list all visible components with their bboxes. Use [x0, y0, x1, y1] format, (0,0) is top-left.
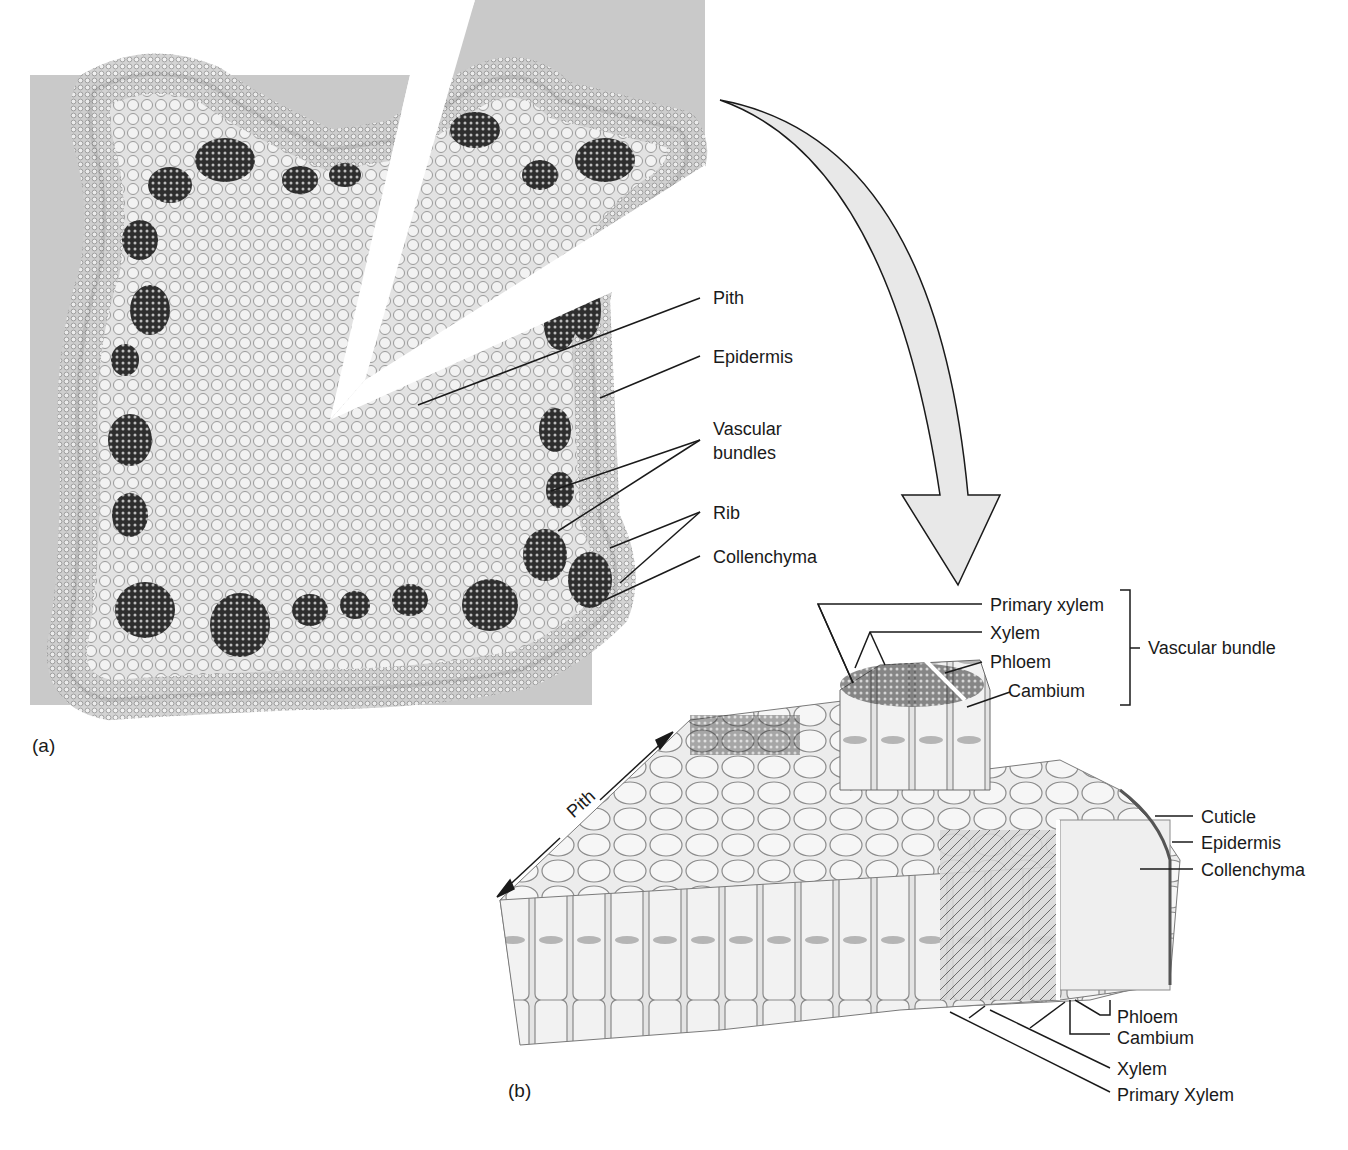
label-collenchyma-b: Collenchyma — [1201, 859, 1305, 881]
label-xylem-top: Xylem — [990, 622, 1040, 644]
label-vascular-bundle-group: Vascular bundle — [1148, 637, 1276, 659]
label-vascular-bundles-line2: bundles — [713, 442, 776, 464]
panel-label-a: (a) — [32, 735, 55, 757]
label-cambium-bottom: Cambium — [1117, 1027, 1194, 1049]
label-epidermis-a: Epidermis — [713, 346, 793, 368]
micrograph-panel-a — [30, 0, 705, 705]
curved-arrow-icon — [720, 100, 1000, 585]
label-rib: Rib — [713, 502, 740, 524]
label-phloem-bottom: Phloem — [1117, 1006, 1178, 1028]
label-cambium-top: Cambium — [1008, 680, 1085, 702]
label-epidermis-b: Epidermis — [1201, 832, 1281, 854]
label-collenchyma-a: Collenchyma — [713, 546, 817, 568]
figure-canvas — [0, 0, 1348, 1150]
block-diagram-panel-b — [500, 660, 1180, 1045]
panel-b-bottom-leader-lines — [950, 1000, 1110, 1092]
label-cuticle: Cuticle — [1201, 806, 1256, 828]
label-xylem-bottom: Xylem — [1117, 1058, 1167, 1080]
label-pith-a: Pith — [713, 287, 744, 309]
panel-label-b: (b) — [508, 1080, 531, 1102]
label-phloem-top: Phloem — [990, 651, 1051, 673]
label-primary-xylem-top: Primary xylem — [990, 594, 1104, 616]
label-vascular-bundles-line1: Vascular — [713, 418, 782, 440]
label-primary-xylem-bottom: Primary Xylem — [1117, 1084, 1234, 1106]
